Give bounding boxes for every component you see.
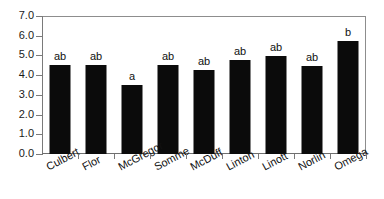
x-axis-tick bbox=[78, 154, 79, 159]
chart-figure: 0.01.02.03.04.05.06.07.0 ababaababababab… bbox=[0, 0, 384, 199]
y-axis-tick bbox=[36, 16, 42, 17]
x-axis-tick bbox=[150, 154, 151, 159]
x-axis-tick bbox=[366, 154, 367, 159]
x-axis-tick-label: Norlin bbox=[296, 149, 327, 173]
y-axis-tick bbox=[36, 115, 42, 116]
x-axis-tick-label: Flor bbox=[80, 153, 102, 172]
x-axis-tick-label: Linton bbox=[224, 148, 256, 173]
x-axis-tick bbox=[330, 154, 331, 159]
x-axis-tick-label: McDuff bbox=[188, 146, 224, 173]
x-axis: CulbertFlorMcGregorSommeMcDuffLintonLino… bbox=[0, 0, 384, 199]
x-axis-tick bbox=[186, 154, 187, 159]
x-axis-tick bbox=[114, 154, 115, 159]
y-axis-tick bbox=[36, 95, 42, 96]
y-axis-tick bbox=[36, 134, 42, 135]
x-axis-tick bbox=[222, 154, 223, 159]
x-axis-tick-label: Linott bbox=[260, 149, 289, 172]
y-axis-tick bbox=[36, 75, 42, 76]
x-axis-tick bbox=[258, 154, 259, 159]
x-axis-tick bbox=[294, 154, 295, 159]
x-axis-tick-label: Culbert bbox=[44, 145, 81, 172]
x-axis-tick-label: Omega bbox=[332, 145, 369, 173]
y-axis-tick bbox=[36, 55, 42, 56]
y-axis-tick bbox=[36, 154, 42, 155]
y-axis-tick bbox=[36, 36, 42, 37]
